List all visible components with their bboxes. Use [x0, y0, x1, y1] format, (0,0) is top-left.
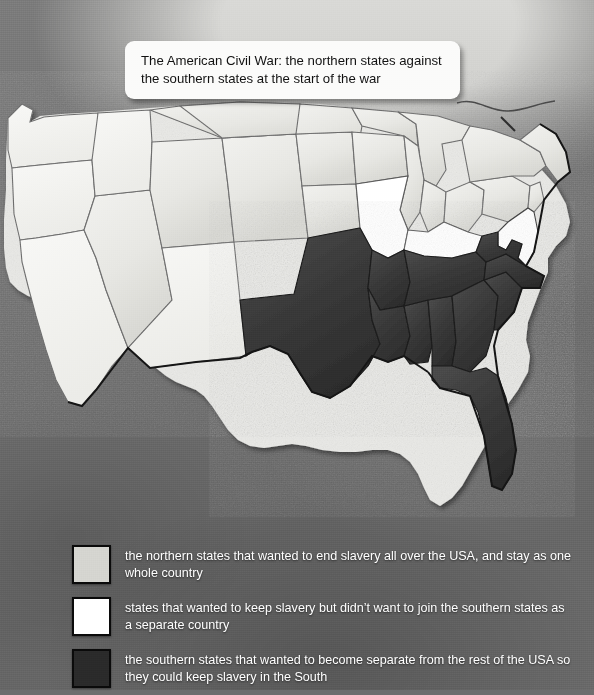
map-canvas: The American Civil War: the northern sta…	[0, 0, 594, 690]
paper-grain-overlay	[0, 0, 594, 690]
